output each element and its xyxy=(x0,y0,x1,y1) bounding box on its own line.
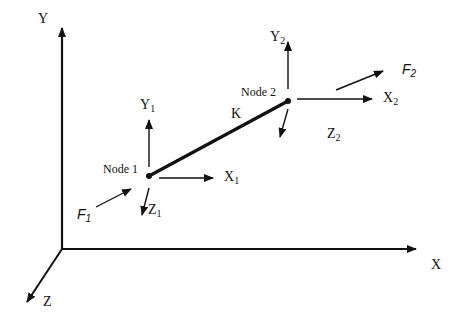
node-2-y-label: Y2 xyxy=(270,30,285,46)
diagram-canvas xyxy=(0,0,463,322)
global-y-label: Y xyxy=(38,12,48,26)
node-1-x-label: X1 xyxy=(224,170,239,186)
element-k-label: K xyxy=(231,107,241,121)
global-x-label: X xyxy=(431,258,441,272)
force-f2-arrow xyxy=(336,71,383,90)
force-f2-label: F2 xyxy=(402,62,416,79)
node-2-z-label: Z2 xyxy=(327,127,341,143)
force-f1-arrow xyxy=(96,189,131,207)
node-1-label: Node 1 xyxy=(103,163,138,175)
node-2-z-axis xyxy=(280,109,288,137)
global-z-label: Z xyxy=(43,295,52,309)
node-1-z-label: Z1 xyxy=(148,203,162,219)
force-f1-label: F1 xyxy=(77,207,91,224)
node-2-label: Node 2 xyxy=(241,86,276,98)
spring-element-k xyxy=(149,101,288,176)
node-1-point xyxy=(146,173,152,179)
node-1-y-label: Y1 xyxy=(140,98,155,114)
node-2-point xyxy=(285,98,291,104)
node-2-x-label: X2 xyxy=(383,91,398,107)
